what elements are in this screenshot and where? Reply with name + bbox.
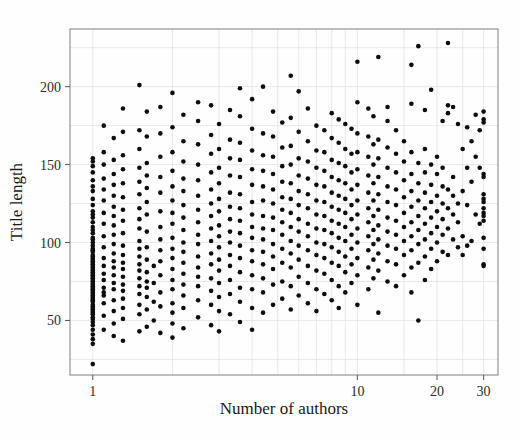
data-point xyxy=(217,309,222,314)
data-point xyxy=(101,271,106,276)
data-point xyxy=(111,309,116,314)
data-point xyxy=(101,264,106,269)
data-point xyxy=(170,246,175,251)
data-point xyxy=(101,245,106,250)
data-point xyxy=(306,281,311,286)
data-point xyxy=(170,211,175,216)
data-point xyxy=(170,278,175,283)
data-point xyxy=(322,200,327,205)
data-point xyxy=(336,161,341,166)
data-point xyxy=(145,161,150,166)
data-point xyxy=(101,222,106,227)
data-point xyxy=(250,183,255,188)
data-point xyxy=(314,212,319,217)
data-point xyxy=(137,83,142,88)
data-point xyxy=(296,243,301,248)
y-tick-label: 50 xyxy=(47,313,61,328)
data-point xyxy=(366,234,371,239)
data-point xyxy=(394,232,399,237)
data-point xyxy=(423,147,428,152)
data-point xyxy=(261,250,266,255)
data-point xyxy=(329,204,334,209)
data-point xyxy=(181,112,186,117)
data-point xyxy=(296,189,301,194)
data-point xyxy=(196,284,201,289)
data-point xyxy=(209,187,214,192)
data-point xyxy=(473,212,478,217)
data-point xyxy=(217,147,222,152)
data-point xyxy=(371,214,376,219)
data-point xyxy=(469,239,474,244)
data-point xyxy=(158,209,163,214)
data-point xyxy=(349,232,354,237)
data-point xyxy=(322,184,327,189)
data-point xyxy=(385,145,390,150)
data-point xyxy=(271,215,276,220)
data-point xyxy=(170,256,175,261)
data-point xyxy=(91,197,96,202)
data-point xyxy=(416,260,421,265)
data-point xyxy=(376,268,381,273)
data-point xyxy=(145,270,150,275)
data-point xyxy=(250,148,255,153)
data-point xyxy=(170,310,175,315)
data-point xyxy=(137,246,142,251)
data-point xyxy=(261,198,266,203)
data-point xyxy=(121,338,126,343)
data-point xyxy=(217,181,222,186)
data-point xyxy=(296,156,301,161)
data-point xyxy=(261,131,266,136)
data-point xyxy=(228,312,233,317)
data-point xyxy=(385,184,390,189)
data-point xyxy=(402,239,407,244)
data-point xyxy=(306,159,311,164)
data-point xyxy=(209,133,214,138)
data-point xyxy=(394,151,399,156)
data-point xyxy=(481,236,486,241)
data-point xyxy=(306,248,311,253)
data-point xyxy=(402,225,407,230)
data-point xyxy=(385,229,390,234)
data-point xyxy=(217,281,222,286)
data-point xyxy=(329,175,334,180)
data-point xyxy=(435,225,440,230)
data-point xyxy=(314,226,319,231)
data-point xyxy=(209,170,214,175)
data-point xyxy=(322,214,327,219)
data-point xyxy=(261,290,266,295)
data-point xyxy=(91,237,96,242)
data-point xyxy=(271,134,276,139)
data-point xyxy=(121,306,126,311)
data-point xyxy=(158,290,163,295)
data-point xyxy=(451,105,456,110)
data-point xyxy=(181,326,186,331)
data-point xyxy=(261,226,266,231)
data-point xyxy=(322,256,327,261)
data-point xyxy=(329,111,334,116)
data-point xyxy=(288,116,293,121)
data-point xyxy=(435,155,440,160)
data-point xyxy=(314,240,319,245)
data-point xyxy=(336,140,341,145)
data-point xyxy=(409,172,414,177)
data-point xyxy=(101,301,106,306)
data-point xyxy=(217,209,222,214)
data-point xyxy=(158,225,163,230)
data-point xyxy=(121,289,126,294)
data-point xyxy=(336,178,341,183)
data-point xyxy=(456,201,461,206)
data-point xyxy=(271,155,276,160)
data-point xyxy=(261,276,266,281)
data-point xyxy=(111,214,116,219)
data-point xyxy=(329,190,334,195)
data-point xyxy=(288,181,293,186)
data-point xyxy=(296,229,301,234)
data-point xyxy=(314,268,319,273)
data-point xyxy=(238,270,243,275)
data-point xyxy=(402,159,407,164)
data-point xyxy=(416,214,421,219)
data-point xyxy=(280,279,285,284)
data-point xyxy=(366,287,371,292)
data-point xyxy=(228,137,233,142)
data-point xyxy=(158,331,163,336)
